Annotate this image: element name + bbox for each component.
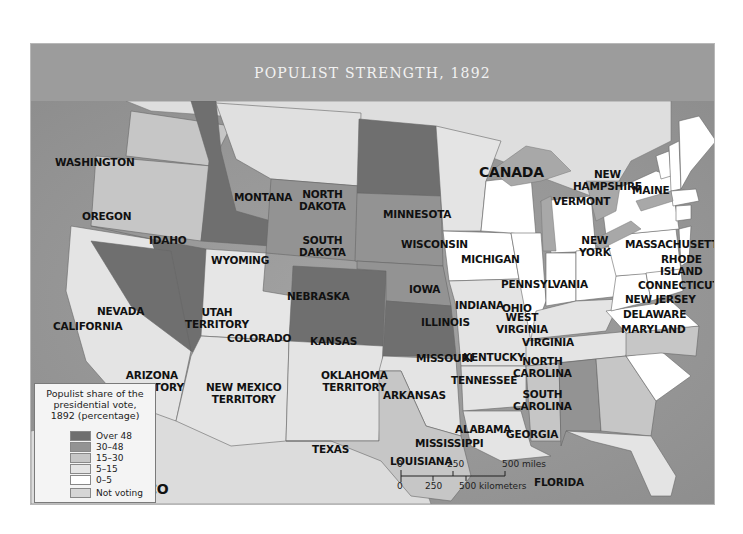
legend-swatch <box>70 488 91 498</box>
state-south-dakota <box>355 193 443 266</box>
label-nebraska: NEBRASKA <box>287 290 349 302</box>
state-north-dakota <box>357 119 441 196</box>
label-oregon: OREGON <box>82 210 131 222</box>
label-tennessee: TENNESSEE <box>451 374 517 386</box>
legend-item-over-48: Over 48 <box>70 431 132 441</box>
scale-km-0: 0 <box>397 481 403 491</box>
label-california: CALIFORNIA <box>53 320 122 332</box>
legend-swatch <box>70 442 91 452</box>
label-texas: TEXAS <box>312 443 349 455</box>
map-title: POPULIST STRENGTH, 1892 <box>254 65 491 81</box>
state-new-hampshire <box>669 141 681 191</box>
label-maryland: MARYLAND <box>621 323 685 335</box>
label-indiana: INDIANA <box>455 299 504 311</box>
label-georgia: GEORGIA <box>506 428 558 440</box>
label-new-mexico: NEW MEXICOTERRITORY <box>206 381 281 405</box>
legend-item-5-15: 5–15 <box>70 464 118 474</box>
label-north-carolina: NORTHCAROLINA <box>513 355 572 379</box>
legend-swatch <box>70 453 91 463</box>
state-colorado <box>289 266 386 346</box>
label-mississippi: MISSISSIPPI <box>415 437 484 449</box>
label-wisconsin: WISCONSIN <box>401 238 468 250</box>
state-kansas <box>383 301 456 356</box>
state-connecticut <box>676 205 691 221</box>
legend-item-not-voting: Not voting <box>70 488 143 498</box>
label-iowa: IOWA <box>409 283 440 295</box>
label-massachusetts: MASSACHUSETTS <box>625 238 715 250</box>
label-new-york: NEWYORK <box>579 234 611 258</box>
legend-swatch <box>70 475 91 485</box>
label-kansas: KANSAS <box>310 335 357 347</box>
legend-item-30-48: 30–48 <box>70 442 123 452</box>
scale-bar: 0 250 500 miles 0 250 500 kilometers <box>399 459 529 495</box>
label-washington: WASHINGTON <box>55 156 135 168</box>
label-vermont: VERMONT <box>553 195 610 207</box>
legend-title: Populist share of the presidential vote,… <box>35 388 155 421</box>
label-alabama: ALABAMA <box>455 423 511 435</box>
scale-km-500: 500 kilometers <box>459 481 527 491</box>
map-frame: POPULIST STRENGTH, 1892 <box>30 43 715 505</box>
label-montana: MONTANA <box>234 191 292 203</box>
label-west-virginia: WESTVIRGINIA <box>496 311 548 335</box>
label-pennsylvania: PENNSYLVANIA <box>501 278 588 290</box>
label-michigan: MICHIGAN <box>461 253 520 265</box>
legend-item-15-30: 15–30 <box>70 453 123 463</box>
map-area: CANADA MEXICO WASHINGTON OREGON CALIFORN… <box>31 101 714 504</box>
label-north-dakota: NORTHDAKOTA <box>299 188 346 212</box>
map-legend: Populist share of the presidential vote,… <box>34 383 156 503</box>
legend-item-0-5: 0–5 <box>70 475 112 485</box>
label-arkansas: ARKANSAS <box>383 389 446 401</box>
label-wyoming: WYOMING <box>211 254 269 266</box>
label-nevada: NEVADA <box>97 305 144 317</box>
label-south-carolina: SOUTHCAROLINA <box>513 388 572 412</box>
label-minnesota: MINNESOTA <box>383 208 451 220</box>
label-idaho: IDAHO <box>149 234 186 246</box>
label-connecticut: CONNECTICUT <box>638 279 715 291</box>
label-south-dakota: SOUTHDAKOTA <box>299 234 346 258</box>
label-virginia: VIRGINIA <box>522 336 574 348</box>
map-title-bar: POPULIST STRENGTH, 1892 <box>31 44 714 101</box>
label-colorado: COLORADO <box>227 332 291 344</box>
legend-swatch <box>70 464 91 474</box>
label-delaware: DELAWARE <box>623 308 686 320</box>
label-maine: MAINE <box>632 184 669 196</box>
scale-km-250: 250 <box>425 481 442 491</box>
label-canada: CANADA <box>479 164 544 180</box>
legend-swatch <box>70 431 91 441</box>
label-rhode-island: RHODEISLAND <box>660 253 703 277</box>
state-wisconsin <box>481 176 536 236</box>
label-illinois: ILLINOIS <box>421 316 470 328</box>
label-utah: UTAHTERRITORY <box>185 306 249 330</box>
state-oregon <box>91 156 211 241</box>
label-florida: FLORIDA <box>534 476 584 488</box>
label-oklahoma: OKLAHOMATERRITORY <box>321 369 388 393</box>
label-new-jersey: NEW JERSEY <box>625 293 696 305</box>
